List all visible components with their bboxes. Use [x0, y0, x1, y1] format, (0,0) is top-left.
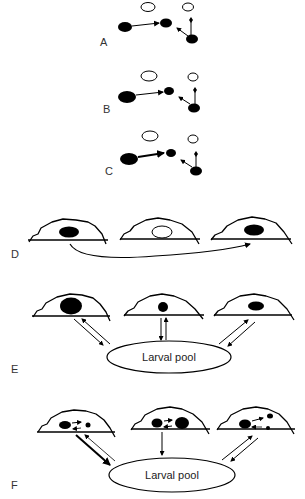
arrow-icon [72, 422, 81, 423]
panel-label-d: D [11, 248, 19, 260]
figure-diagram: A B C D [0, 0, 305, 499]
panel-a: A [100, 3, 198, 49]
target-node-icon [160, 19, 172, 28]
open-node-icon [188, 135, 198, 143]
cell-1 [28, 219, 108, 244]
filled-nucleus-icon [60, 298, 82, 315]
filled-nucleus-icon [152, 419, 163, 428]
arrow-icon [74, 319, 103, 345]
cell-3 [217, 407, 295, 434]
bold-arrow-icon [76, 435, 110, 465]
source-node-icon [120, 153, 138, 165]
arrow-icon [164, 426, 172, 427]
small-nucleus-icon [86, 423, 91, 428]
source-node-icon [118, 22, 132, 32]
arrow-icon [73, 428, 81, 429]
filled-nucleus-icon [59, 421, 71, 429]
cell-1 [32, 294, 110, 321]
arrow-icon [181, 160, 192, 167]
curved-arrow-icon [70, 244, 250, 258]
open-node-icon [142, 131, 158, 141]
filled-nucleus-icon [239, 420, 251, 429]
filled-nucleus-icon [158, 302, 168, 312]
arrow-icon [179, 97, 190, 104]
small-nucleus-icon [266, 426, 270, 430]
cell-1 [37, 410, 115, 437]
large-nucleus-icon [175, 417, 189, 429]
diamond-icon [193, 87, 197, 93]
arrow-icon [82, 319, 110, 344]
diamond-icon [189, 17, 193, 23]
arrow-icon [164, 420, 172, 421]
open-node-icon [141, 71, 157, 81]
panel-f: F Larval [11, 407, 295, 492]
panel-d: D [11, 217, 292, 260]
arrow-icon [132, 23, 159, 26]
diamond-icon [194, 151, 198, 157]
arrow-icon [252, 418, 263, 421]
cell-2 [120, 218, 200, 244]
panel-label-a: A [100, 36, 108, 48]
open-node-icon [183, 3, 194, 11]
panel-label-c: C [105, 165, 113, 177]
larval-pool-label: Larval pool [142, 351, 196, 363]
panel-e: E Larval pool [11, 294, 294, 375]
target-node-icon [164, 87, 174, 95]
filled-nucleus-icon [244, 225, 264, 236]
target-node-icon [166, 149, 176, 157]
small-nucleus-icon [267, 414, 273, 419]
cell-3 [214, 294, 294, 320]
panel-b: B [103, 71, 200, 115]
source-node-icon [118, 91, 136, 103]
open-node-icon [188, 73, 198, 81]
filled-nucleus-icon [248, 302, 264, 311]
arrow-icon [136, 92, 163, 95]
larval-pool-label: Larval pool [145, 469, 199, 481]
cell-2 [131, 407, 210, 434]
cell-2 [124, 294, 204, 319]
right-node-icon [188, 104, 200, 113]
bold-arrow-icon [138, 153, 164, 157]
arrow-icon [177, 28, 188, 36]
cell-3 [211, 217, 292, 244]
open-node-icon [141, 3, 155, 12]
right-node-icon [190, 167, 202, 176]
panel-label-f: F [11, 479, 18, 491]
open-nucleus-icon [152, 226, 172, 238]
panel-label-b: B [103, 103, 110, 115]
panel-label-e: E [11, 363, 18, 375]
filled-nucleus-icon [59, 227, 79, 238]
panel-c: C [105, 131, 202, 177]
